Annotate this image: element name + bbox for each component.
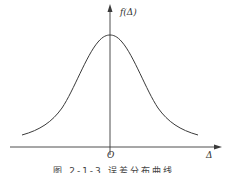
origin-label: O xyxy=(107,151,114,160)
x-axis-label: Δ xyxy=(206,151,213,160)
figure-caption: 图 2-1-3 误差分布曲线 xyxy=(0,164,227,173)
y-axis-arrow-icon xyxy=(108,4,113,12)
y-axis-label: f(Δ) xyxy=(120,8,137,17)
error-distribution-diagram xyxy=(0,0,227,173)
x-axis-arrow-icon xyxy=(214,145,222,150)
